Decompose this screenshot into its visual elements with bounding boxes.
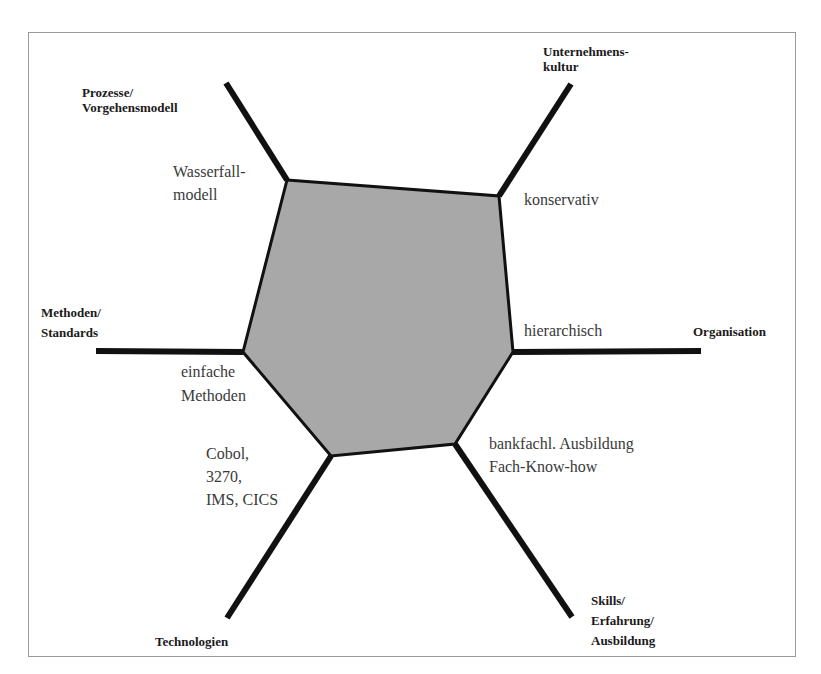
axis-label-kultur: Unternehmens- kultur	[543, 44, 629, 74]
value-label-prozesse: Wasserfall- modell	[173, 160, 245, 206]
value-label-organisation: hierarchisch	[524, 319, 602, 342]
axis-organisation	[513, 351, 701, 352]
axis-methoden	[96, 351, 243, 352]
axis-label-skills: Skills/ Erfahrung/ Ausbildung	[591, 591, 655, 651]
axis-kultur	[499, 84, 571, 196]
axis-label-organisation: Organisation	[693, 324, 766, 339]
value-label-skills: bankfachl. Ausbildung Fach-Know-how	[489, 432, 634, 478]
value-label-kultur: konservativ	[524, 188, 599, 211]
value-label-methoden: einfache Methoden	[181, 360, 246, 408]
value-label-technologien: Cobol, 3270, IMS, CICS	[206, 442, 278, 511]
axis-label-methoden: Methoden/ Standards	[41, 303, 101, 343]
axis-label-prozesse: Prozesse/ Vorgehensmodell	[82, 85, 178, 115]
axis-label-technologien: Technologien	[155, 634, 228, 649]
profile-polygon	[243, 180, 513, 456]
